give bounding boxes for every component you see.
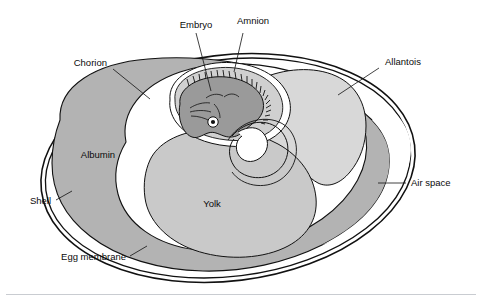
label-embryo: Embryo <box>180 19 213 30</box>
egg-diagram-figure: Embryo Amnion Chorion Allantois Albumin … <box>0 0 482 308</box>
label-albumin: Albumin <box>81 149 115 160</box>
label-amnion: Amnion <box>237 15 269 26</box>
label-yolk: Yolk <box>203 198 221 209</box>
egg-cross-section-illustration: Embryo Amnion Chorion Allantois Albumin … <box>0 0 482 308</box>
label-chorion: Chorion <box>74 57 107 68</box>
label-shell: Shell <box>30 195 51 206</box>
label-allantois: Allantois <box>385 56 421 67</box>
label-air-space: Air space <box>411 177 451 188</box>
label-egg-membrane: Egg membrane <box>61 251 126 262</box>
embryo-pupil <box>211 120 215 124</box>
